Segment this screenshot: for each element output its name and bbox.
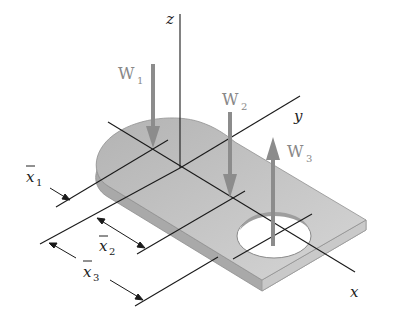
dimension-label-x3: x 3 bbox=[83, 261, 99, 283]
svg-text:W: W bbox=[287, 142, 304, 161]
force-label-w2: W 2 bbox=[222, 90, 247, 112]
dimension-label-x2: x 2 bbox=[99, 236, 115, 257]
axis-label-y: y bbox=[293, 107, 303, 125]
force-label-w1: W 1 bbox=[118, 64, 143, 86]
axis-label-z: z bbox=[165, 10, 174, 28]
svg-text:3: 3 bbox=[93, 272, 99, 283]
svg-text:W: W bbox=[118, 64, 135, 83]
svg-text:1: 1 bbox=[36, 177, 42, 188]
plate-weights-diagram: z y x W 1 W 2 W 3 x 1 x 2 x 3 bbox=[0, 0, 393, 336]
svg-text:2: 2 bbox=[241, 101, 247, 112]
force-label-w3: W 3 bbox=[287, 142, 312, 164]
axis-label-x: x bbox=[350, 283, 359, 301]
svg-text:x: x bbox=[83, 263, 92, 281]
svg-text:x: x bbox=[99, 237, 108, 255]
svg-text:3: 3 bbox=[306, 153, 312, 164]
svg-text:2: 2 bbox=[109, 246, 115, 257]
dimension-label-x1: x 1 bbox=[26, 166, 42, 188]
svg-text:1: 1 bbox=[137, 75, 143, 86]
svg-text:x: x bbox=[26, 168, 35, 186]
svg-text:W: W bbox=[222, 90, 239, 109]
